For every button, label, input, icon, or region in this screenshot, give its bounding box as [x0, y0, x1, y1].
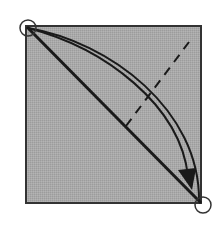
bottom-right-corner-circle-icon: [195, 197, 211, 213]
diagram-canvas: [0, 0, 219, 228]
origami-diagram: [0, 0, 219, 228]
